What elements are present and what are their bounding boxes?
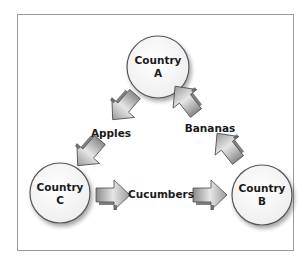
- trade-diagram: Country A Country B Country C Apples Cuc…: [0, 0, 308, 265]
- arrow-cucumbers-left-icon: [96, 180, 130, 210]
- flow-label-bananas: Bananas: [185, 122, 235, 134]
- node-c-label-line1: Country: [37, 181, 84, 193]
- arrow-cucumbers-right-icon: [193, 180, 227, 210]
- node-c-label-line2: C: [56, 194, 64, 206]
- node-b-label-line2: B: [258, 195, 266, 207]
- node-b-label-line1: Country: [239, 182, 286, 194]
- flow-label-apples: Apples: [91, 127, 131, 139]
- node-country-c: [30, 163, 90, 223]
- flow-label-cucumbers: Cucumbers: [128, 188, 194, 200]
- node-a-label-line1: Country: [135, 54, 182, 66]
- node-a-label-line2: A: [154, 67, 163, 79]
